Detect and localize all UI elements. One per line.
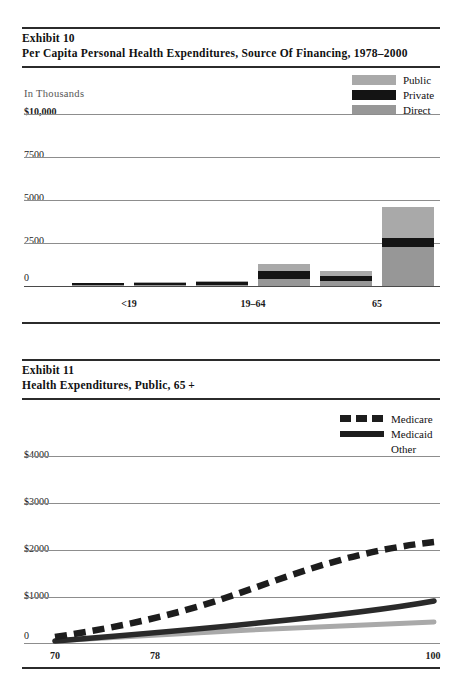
document-page: Exhibit 10 Per Capita Personal Health Ex…	[0, 0, 462, 679]
series-line-medicaid	[55, 601, 434, 641]
exhibit-11-chart: $4000 $3000 $2000 $1000 0 70 78 100	[0, 0, 462, 679]
exhibit-11-line-layer	[0, 0, 462, 679]
xtick-78: 78	[140, 650, 170, 661]
xtick-100: 100	[418, 650, 448, 661]
xtick-70: 70	[40, 650, 70, 661]
exhibit-11-rule-bottom	[22, 667, 440, 669]
